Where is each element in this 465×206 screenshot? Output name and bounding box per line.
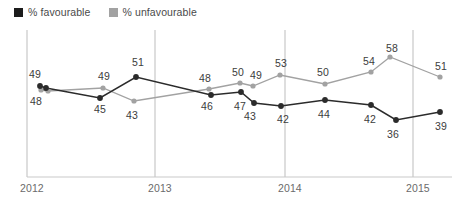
value-label-favourable-2: 45 <box>94 103 106 115</box>
data-point-favourable-8 <box>322 97 328 103</box>
value-label-unfavourable-9: 54 <box>363 55 375 67</box>
x-tick-2012: 2012 <box>20 182 44 194</box>
value-label-favourable-9: 42 <box>364 113 376 125</box>
data-point-favourable-4 <box>208 92 214 98</box>
data-point-unfavourable-11 <box>437 74 442 79</box>
data-point-favourable-10 <box>393 117 399 123</box>
data-point-favourable-9 <box>368 102 374 108</box>
chart-plot-area <box>0 0 465 206</box>
value-label-unfavourable-10: 58 <box>386 42 398 54</box>
data-point-favourable-11 <box>437 109 443 115</box>
data-point-unfavourable-8 <box>322 81 327 86</box>
data-point-unfavourable-7 <box>277 72 282 77</box>
value-label-unfavourable-8: 50 <box>317 66 329 78</box>
data-point-unfavourable-5 <box>237 80 242 85</box>
data-point-favourable-1 <box>43 85 49 91</box>
data-point-unfavourable-9 <box>368 69 373 74</box>
value-label-unfavourable-0: 48 <box>30 95 42 107</box>
x-tick-2013: 2013 <box>148 182 172 194</box>
value-label-unfavourable-2: 49 <box>98 70 110 82</box>
data-point-unfavourable-10 <box>387 54 392 59</box>
data-point-favourable-6 <box>251 100 257 106</box>
value-label-favourable-4: 46 <box>201 100 213 112</box>
value-label-unfavourable-5: 50 <box>232 66 244 78</box>
value-label-unfavourable-11: 51 <box>435 60 447 72</box>
x-tick-2015: 2015 <box>406 182 430 194</box>
value-label-unfavourable-7: 53 <box>275 57 287 69</box>
value-label-favourable-11: 39 <box>435 120 447 132</box>
data-point-favourable-5 <box>238 89 244 95</box>
value-label-favourable-7: 42 <box>277 113 289 125</box>
data-point-unfavourable-2 <box>100 85 105 90</box>
data-point-favourable-3 <box>133 74 139 80</box>
value-label-unfavourable-6: 49 <box>250 69 262 81</box>
data-point-unfavourable-4 <box>206 86 211 91</box>
value-label-favourable-0: 49 <box>29 68 41 80</box>
data-point-unfavourable-6 <box>250 83 255 88</box>
chart-container: % favourable % unfavourable 201220132014… <box>0 0 465 206</box>
data-point-unfavourable-3 <box>131 98 136 103</box>
value-label-favourable-3: 51 <box>132 56 144 68</box>
value-label-favourable-8: 44 <box>318 108 330 120</box>
x-tick-2014: 2014 <box>278 182 302 194</box>
data-point-favourable-7 <box>278 103 284 109</box>
value-label-favourable-6: 43 <box>244 110 256 122</box>
value-label-unfavourable-3: 43 <box>126 109 138 121</box>
data-point-favourable-2 <box>97 95 103 101</box>
data-point-favourable-0 <box>37 83 43 89</box>
value-label-unfavourable-4: 48 <box>199 72 211 84</box>
value-label-favourable-10: 36 <box>387 128 399 140</box>
